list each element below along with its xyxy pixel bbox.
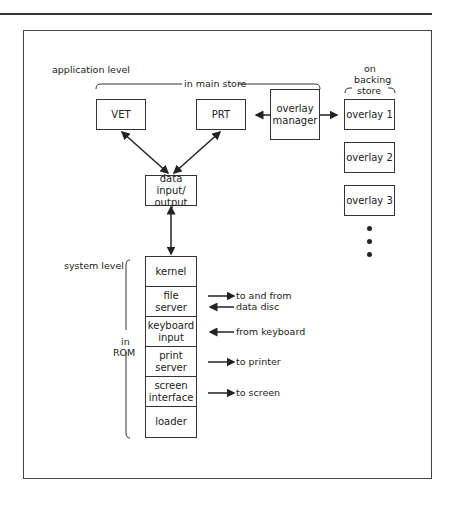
in-label: in bbox=[121, 336, 130, 347]
on-label: on bbox=[364, 63, 376, 74]
overlay-1-box: overlay 1 bbox=[344, 99, 395, 130]
rom-label: ROM bbox=[113, 347, 135, 358]
overlay-manager-label-1: overlay bbox=[276, 103, 313, 115]
cell-label: server bbox=[155, 302, 187, 314]
keyboard-note: from keyboard bbox=[236, 326, 305, 337]
data-io-label-2: output bbox=[155, 197, 188, 209]
vet-label: VET bbox=[111, 109, 130, 121]
overlay-2-label: overlay 2 bbox=[346, 152, 393, 164]
cell-label: input bbox=[158, 332, 184, 344]
vet-box: VET bbox=[96, 99, 146, 130]
cell-label: loader bbox=[155, 416, 187, 428]
screen-interface-cell: screeninterface bbox=[146, 377, 196, 407]
overlay-manager-label-2: manager bbox=[273, 115, 318, 127]
keyboard-input-cell: keyboardinput bbox=[146, 317, 196, 347]
cell-label: server bbox=[155, 362, 187, 374]
application-level-label: application level bbox=[52, 64, 130, 75]
prt-box: PRT bbox=[196, 99, 246, 130]
data-io-label-1: data input/ bbox=[146, 173, 196, 197]
system-stack: kernel fileserver keyboardinput printser… bbox=[145, 256, 197, 438]
screen-note: to screen bbox=[236, 387, 280, 398]
file-io-note-1: to and from bbox=[236, 290, 292, 301]
cell-label: print bbox=[159, 350, 183, 362]
backing-label: backing bbox=[354, 74, 391, 85]
file-io-note-2: data disc bbox=[236, 301, 279, 312]
printer-note: to printer bbox=[236, 356, 281, 367]
overlay-3-box: overlay 3 bbox=[344, 185, 395, 216]
ellipsis-dot bbox=[367, 239, 372, 244]
cell-label: kernel bbox=[156, 266, 187, 278]
store-label: store bbox=[357, 85, 381, 96]
cell-label: keyboard bbox=[148, 320, 194, 332]
data-io-box: data input/ output bbox=[145, 175, 197, 206]
loader-cell: loader bbox=[146, 407, 196, 437]
overlay-1-label: overlay 1 bbox=[346, 109, 393, 121]
cell-label: interface bbox=[149, 392, 194, 404]
overlay-3-label: overlay 3 bbox=[346, 195, 393, 207]
cell-label: screen bbox=[154, 380, 187, 392]
prt-label: PRT bbox=[212, 109, 230, 121]
ellipsis-dot bbox=[367, 226, 372, 231]
overlay-2-box: overlay 2 bbox=[344, 142, 395, 173]
in-main-store-label: in main store bbox=[184, 78, 246, 89]
kernel-cell: kernel bbox=[146, 257, 196, 287]
overlay-manager-box: overlay manager bbox=[270, 89, 320, 140]
print-server-cell: printserver bbox=[146, 347, 196, 377]
cell-label: file bbox=[163, 290, 178, 302]
system-level-label: system level bbox=[64, 260, 124, 271]
file-server-cell: fileserver bbox=[146, 287, 196, 317]
ellipsis-dot bbox=[367, 252, 372, 257]
